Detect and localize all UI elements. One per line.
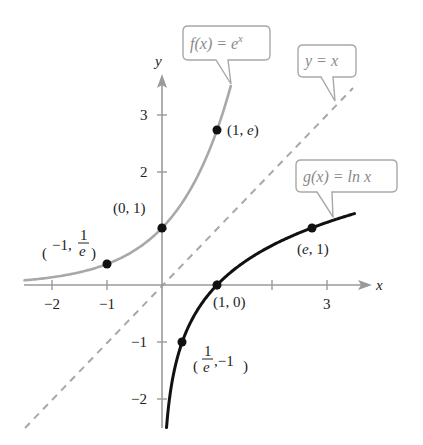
callout-ln: g(x) = ln x [296, 160, 397, 217]
svg-text:g(x) = ln x: g(x) = ln x [303, 168, 371, 186]
point-f-0 [158, 224, 167, 233]
label-f-neg1: ( −1, 1 e ) [42, 227, 96, 262]
svg-text:(: ( [42, 245, 47, 262]
y-tick-label: −1 [131, 334, 147, 350]
label-g-inv-e: ( 1 e ,−1 ) [193, 343, 248, 375]
svg-text:1: 1 [80, 227, 88, 243]
svg-text:(: ( [193, 358, 198, 375]
y-tick-label: 3 [140, 107, 148, 123]
callout-exp: f(x) = ex [183, 26, 270, 84]
y-tick-label: 2 [140, 164, 148, 180]
svg-text:f(x) = ex: f(x) = ex [190, 32, 243, 53]
point-f-neg1 [103, 260, 112, 269]
svg-text:y = x: y = x [303, 52, 338, 70]
label-f-0: (0, 1) [113, 200, 146, 217]
label-f-1: (1, e) [227, 122, 259, 139]
svg-text:−1,: −1, [52, 237, 72, 253]
x-tick-label: −1 [99, 296, 115, 312]
svg-text:): ) [243, 358, 248, 375]
label-g-1: (1, 0) [213, 294, 246, 311]
y-axis [157, 74, 167, 428]
point-g-e [308, 224, 317, 233]
point-g-inv-e [178, 338, 187, 347]
chart: −2 −1 3 3 2 −1 −2 x y ( −1, 1 e ) (0, 1)… [0, 0, 423, 445]
svg-text:e: e [203, 359, 210, 375]
point-g-1 [213, 281, 222, 290]
svg-text:e: e [79, 243, 86, 259]
point-f-1 [213, 126, 222, 135]
y-axis-label: y [153, 53, 162, 69]
x-axis-label: x [375, 277, 383, 293]
x-tick-label: −2 [44, 296, 60, 312]
identity-line [25, 88, 353, 428]
svg-text:,−1: ,−1 [214, 353, 234, 369]
y-tick-label: −2 [131, 391, 147, 407]
callout-identity: y = x [298, 45, 356, 101]
label-g-e: (e, 1) [297, 241, 329, 258]
x-tick-label: 3 [323, 296, 331, 312]
svg-text:1: 1 [204, 343, 212, 359]
x-axis [24, 280, 372, 290]
svg-text:): ) [91, 245, 96, 262]
